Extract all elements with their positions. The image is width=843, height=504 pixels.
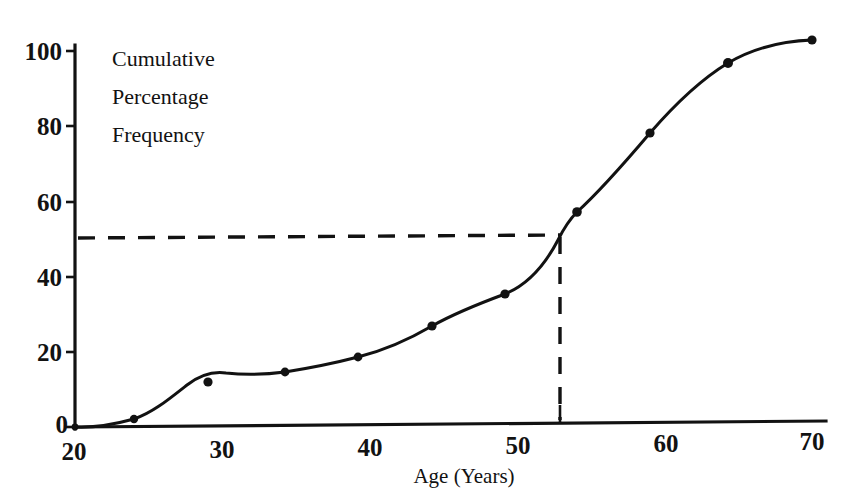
x-tick-label-60: 60 [654, 430, 679, 457]
x-tick-label-30: 30 [210, 436, 235, 463]
data-point-3 [281, 368, 290, 377]
y-tick-label-60: 60 [37, 189, 62, 216]
caption-line-2: Percentage [112, 84, 209, 109]
y-tick-label-0: 0 [56, 411, 69, 438]
chart-page: 100 80 60 40 20 0 20 30 40 50 60 70 Age … [0, 0, 843, 504]
caption-line-3: Frequency [112, 122, 205, 147]
cumulative-frequency-ogive-chart: 100 80 60 40 20 0 20 30 40 50 60 70 Age … [0, 0, 843, 504]
data-point-4 [354, 353, 363, 362]
y-tick-label-40: 40 [37, 264, 62, 291]
caption-line-1: Cumulative [112, 46, 215, 71]
x-tick-label-40: 40 [358, 434, 383, 461]
data-point-9 [723, 58, 733, 68]
y-tick-label-20: 20 [37, 339, 62, 366]
y-tick-label-80: 80 [37, 113, 62, 140]
x-tick-label-70: 70 [800, 428, 825, 455]
data-point-6 [500, 289, 509, 298]
data-point-1 [130, 415, 138, 423]
x-axis-line [75, 421, 826, 427]
x-tick-label-20: 20 [62, 438, 87, 465]
data-point-5 [427, 321, 436, 330]
median-horizontal-dashed-line [78, 235, 560, 238]
data-point-2 [203, 377, 212, 386]
x-axis-title: Age (Years) [413, 464, 514, 488]
x-tick-label-50: 50 [506, 432, 531, 459]
y-tick-label-100: 100 [25, 38, 63, 65]
data-point-10 [807, 35, 816, 44]
data-point-0 [72, 424, 79, 431]
data-point-7 [572, 207, 582, 217]
data-point-8 [645, 128, 654, 137]
